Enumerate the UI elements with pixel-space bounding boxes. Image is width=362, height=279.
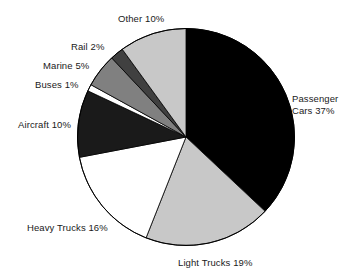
slice-label-passenger-cars: Passenger Cars 37% xyxy=(292,93,356,116)
pie-chart-canvas xyxy=(0,0,362,279)
pie-slices-group xyxy=(78,29,295,246)
slice-label-buses: Buses 1% xyxy=(35,79,79,91)
slice-label-rail: Rail 2% xyxy=(71,41,104,53)
slice-label-light-trucks: Light Trucks 19% xyxy=(178,257,252,269)
slice-label-aircraft: Aircraft 10% xyxy=(18,119,71,131)
slice-label-heavy-trucks: Heavy Trucks 16% xyxy=(27,222,108,234)
slice-label-marine: Marine 5% xyxy=(43,60,89,72)
pie-chart-figure: Other 10% Rail 2% Marine 5% Buses 1% Air… xyxy=(0,0,362,279)
slice-label-other: Other 10% xyxy=(118,13,164,25)
